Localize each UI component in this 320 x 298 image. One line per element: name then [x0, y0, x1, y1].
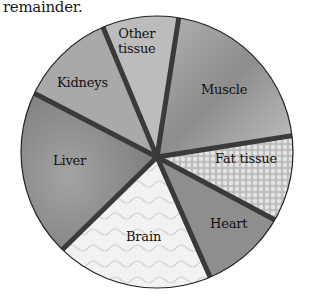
label-kidneys: Kidneys — [57, 75, 108, 90]
label-heart: Heart — [210, 216, 247, 231]
label-liver: Liver — [53, 153, 86, 168]
label-brain: Brain — [126, 229, 161, 244]
label-fat-tissue: Fat tissue — [215, 151, 277, 166]
label-other-tissue: Other tissue — [118, 26, 156, 56]
label-muscle: Muscle — [201, 82, 247, 97]
